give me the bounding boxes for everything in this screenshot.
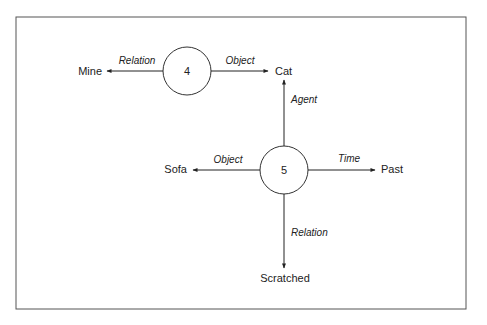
node-4-label: 4 — [184, 65, 190, 77]
semantic-network-diagram: 4 Relation Mine Object Cat 5 Agent Objec… — [0, 0, 487, 325]
node-4: 4 — [163, 47, 211, 95]
node-scratched: Scratched — [260, 272, 310, 284]
edge-label-relation-scratched: Relation — [291, 227, 328, 238]
node-cat: Cat — [275, 65, 292, 77]
edge-label-object-sofa: Object — [214, 154, 244, 165]
node-5: 5 — [260, 146, 308, 194]
edge-label-relation-mine: Relation — [119, 55, 156, 66]
node-5-label: 5 — [281, 164, 287, 176]
edge-label-object-cat: Object — [226, 55, 256, 66]
edge-label-agent: Agent — [290, 94, 318, 105]
node-past: Past — [381, 163, 403, 175]
node-mine: Mine — [78, 65, 102, 77]
edge-label-time: Time — [338, 153, 361, 164]
node-sofa: Sofa — [164, 163, 188, 175]
